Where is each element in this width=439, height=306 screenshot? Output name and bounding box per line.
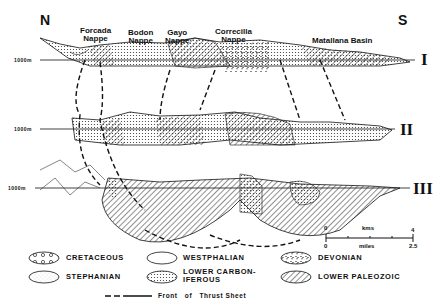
section-numeral-1: I: [421, 50, 428, 70]
scale-bar: [326, 234, 413, 242]
legend-label-cretaceous: CRETACEOUS: [66, 254, 124, 262]
scale-mi-max: 2.5: [409, 243, 417, 249]
elevation-label-3: 1000m: [8, 185, 26, 191]
legend-label-westphalian: WESTPHALIAN: [183, 254, 245, 262]
nappe-label-bodon: BodonNappe: [128, 29, 153, 45]
legend-label-stephanian: STEPHANIAN: [66, 273, 121, 281]
scale-zero-mi: 0: [324, 243, 327, 249]
north-label: N: [40, 12, 50, 28]
nappe-label-forcada: ForcadaNappe: [80, 27, 111, 43]
section-3: [35, 160, 410, 242]
scale-km-label: kms: [362, 225, 374, 231]
legend-label-devonian: DEVONIAN: [318, 254, 362, 262]
section-2: [40, 112, 395, 145]
section-numeral-3: III: [413, 179, 433, 199]
elevation-label-1: 1000m: [14, 57, 32, 63]
scale-zero-km: 0: [324, 225, 327, 231]
legend-label-thrust-front: Front of Thrust Sheet: [158, 292, 246, 300]
elevation-label-2: 1000m: [14, 126, 32, 132]
nappe-label-correcilla: CorrecillaNappe: [215, 28, 252, 44]
legend-label-lower-carboniferous: LOWER CARBON- IFEROUS: [183, 268, 256, 284]
south-label: S: [398, 12, 407, 28]
section-numeral-2: II: [400, 120, 413, 140]
scale-km-max: 4: [411, 227, 414, 233]
scale-mi-label: miles: [359, 243, 374, 249]
legend-label-lower-paleozoic: LOWER PALEOZOIC: [318, 273, 400, 281]
basin-label: Matallana Basin: [312, 37, 372, 45]
nappe-label-gayo: GayoNappe: [165, 29, 189, 45]
